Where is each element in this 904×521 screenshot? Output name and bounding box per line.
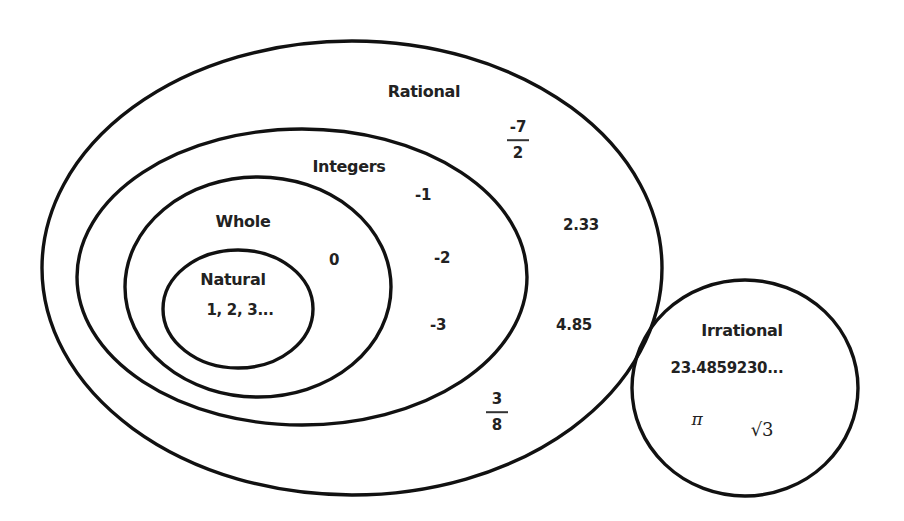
integers-label: Integers: [312, 157, 385, 176]
irrational-member-pi: π: [692, 409, 703, 429]
irrational-member-decimal: 23.4859230...: [671, 359, 784, 377]
integer-member-neg2: -2: [434, 249, 450, 267]
integer-member-neg1: -1: [415, 186, 431, 204]
venn-diagram: [0, 0, 904, 521]
fraction-numerator: 3: [492, 390, 502, 408]
rational-member-3-over-8: 3 8: [486, 390, 508, 434]
irrational-member-sqrt3: √3: [751, 419, 773, 440]
fraction-denominator: 8: [492, 416, 502, 434]
rational-member-neg7-over-2: -7 2: [507, 118, 529, 162]
rational-member-4-85: 4.85: [556, 316, 592, 334]
whole-label: Whole: [216, 212, 271, 231]
irrational-set-boundary: [632, 280, 858, 496]
fraction-numerator: -7: [510, 118, 527, 136]
rational-set-boundary: [42, 41, 662, 495]
irrational-label: Irrational: [701, 321, 782, 340]
fraction-bar: [486, 411, 508, 413]
natural-members: 1, 2, 3...: [206, 301, 273, 319]
rational-member-2-33: 2.33: [563, 216, 599, 234]
rational-label: Rational: [388, 82, 461, 101]
fraction-denominator: 2: [513, 144, 523, 162]
whole-member-zero: 0: [329, 251, 339, 269]
natural-label: Natural: [200, 270, 265, 289]
integer-member-neg3: -3: [430, 316, 446, 334]
fraction-bar: [507, 139, 529, 141]
